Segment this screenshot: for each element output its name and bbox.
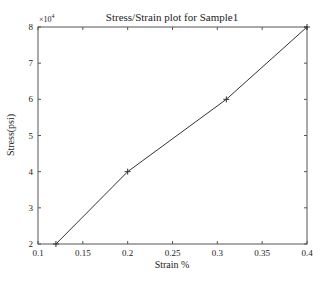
y-axis-ticks: 2345678 bbox=[29, 22, 308, 249]
y-tick-label: 6 bbox=[29, 94, 34, 104]
x-tick-label: 0.2 bbox=[122, 248, 133, 258]
x-tick-label: 0.4 bbox=[301, 248, 313, 258]
x-tick-label: 0.3 bbox=[212, 248, 224, 258]
y-tick-label: 7 bbox=[29, 58, 34, 68]
x-tick-label: 0.25 bbox=[165, 248, 181, 258]
y-axis-label: Stress(psi) bbox=[5, 114, 17, 156]
x-tick-label: 0.1 bbox=[32, 248, 43, 258]
series-line bbox=[56, 27, 307, 244]
y-tick-label: 8 bbox=[29, 22, 34, 32]
y-exponent-label: ×104 bbox=[39, 13, 55, 24]
y-tick-label: 4 bbox=[29, 167, 34, 177]
chart-title: Stress/Strain plot for Sample1 bbox=[106, 11, 238, 23]
x-tick-label: 0.15 bbox=[75, 248, 91, 258]
y-tick-label: 3 bbox=[29, 203, 34, 213]
plot-area bbox=[38, 27, 307, 244]
x-tick-label: 0.35 bbox=[254, 248, 270, 258]
x-axis-ticks: 0.10.150.20.250.30.350.4 bbox=[32, 27, 313, 258]
y-tick-label: 2 bbox=[29, 239, 34, 249]
y-tick-label: 5 bbox=[29, 131, 34, 141]
series-markers bbox=[53, 24, 310, 247]
svg-text:×104: ×104 bbox=[39, 13, 55, 24]
x-axis-label: Strain % bbox=[155, 259, 190, 270]
stress-strain-chart: Stress/Strain plot for Sample1 ×104 0.10… bbox=[0, 0, 327, 284]
